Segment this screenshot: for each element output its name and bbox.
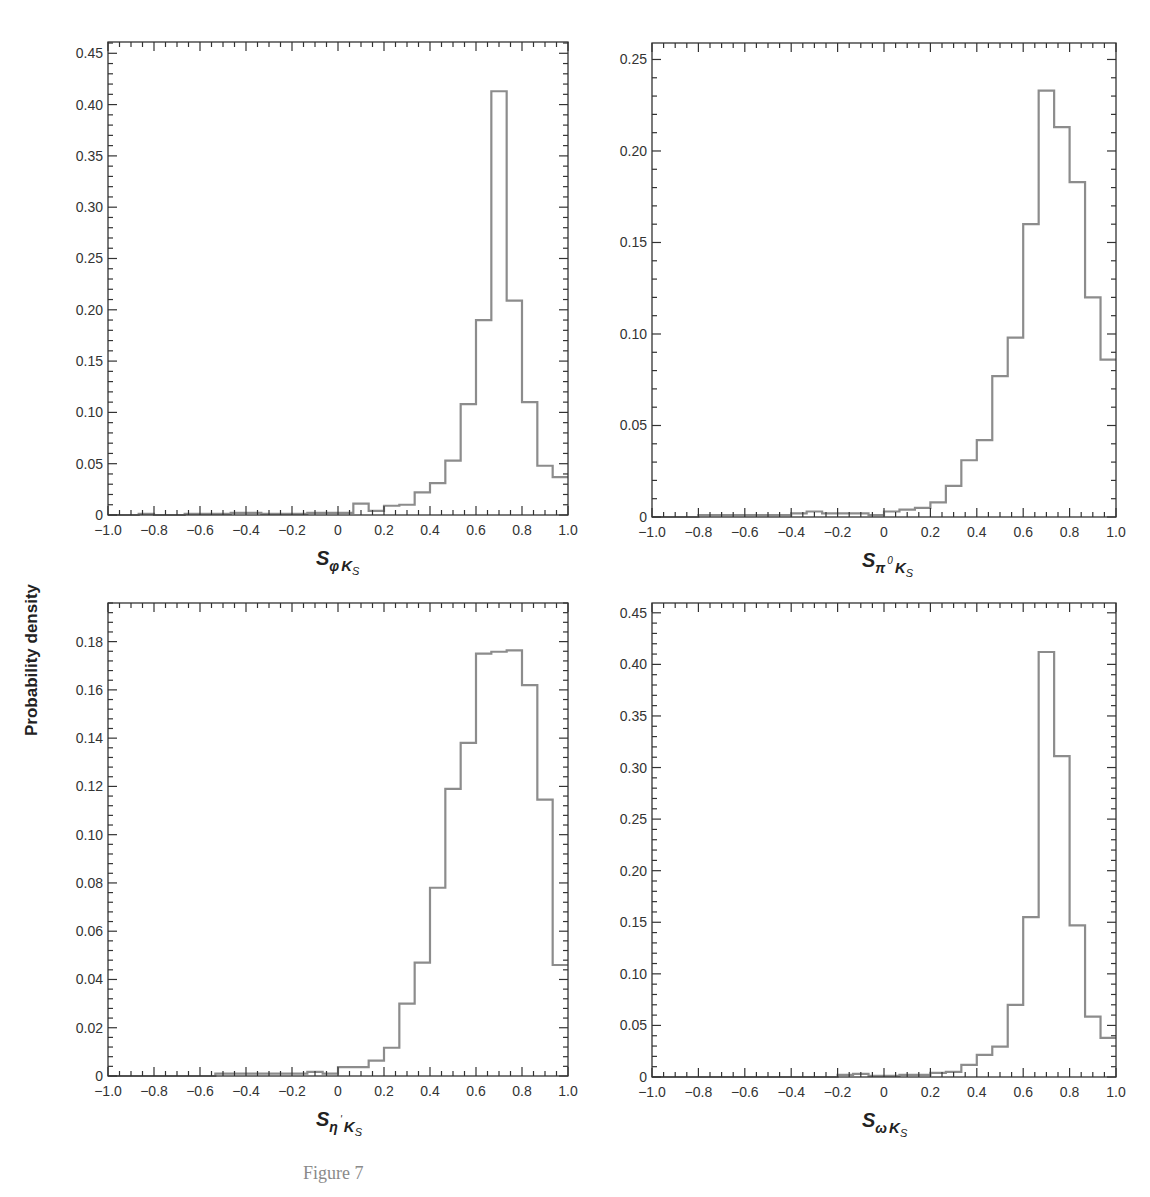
x-tick-label: −0.6 <box>186 1083 214 1099</box>
y-tick-label: 0.35 <box>620 708 647 724</box>
y-tick-label: 0.40 <box>620 656 647 672</box>
x-tick-label: −0.4 <box>777 1084 805 1100</box>
y-tick-label: 0.25 <box>620 811 647 827</box>
y-tick-label: 0.10 <box>76 827 103 843</box>
y-axis-label-text: Probability density <box>22 540 42 780</box>
x-tick-label: −0.2 <box>824 524 852 540</box>
x-tick-label: −0.8 <box>685 1084 713 1100</box>
x-tick-label: 0.2 <box>921 1084 941 1100</box>
y-tick-label: 0.14 <box>76 730 103 746</box>
x-axis-ticks <box>652 43 1116 517</box>
y-tick-label: 0.04 <box>76 971 103 987</box>
x-tick-label: −0.4 <box>232 1083 260 1099</box>
histogram-line <box>108 650 568 1076</box>
histogram-line <box>652 652 1116 1077</box>
x-tick-label: −0.2 <box>824 1084 852 1100</box>
y-axis-label: Probability density <box>22 620 32 660</box>
x-tick-label: 0 <box>334 1083 342 1099</box>
x-tick-label: 1.0 <box>558 522 578 538</box>
x-axis-ticks <box>652 603 1116 1077</box>
y-tick-label: 0.30 <box>76 199 103 215</box>
x-tick-label: 1.0 <box>1106 524 1126 540</box>
histogram-panels: −1.0−0.8−0.6−0.4−0.200.20.40.60.81.000.0… <box>0 0 1150 1197</box>
x-tick-label: 0 <box>880 1084 888 1100</box>
x-tick-label: −0.6 <box>186 522 214 538</box>
y-tick-label: 0.40 <box>76 97 103 113</box>
y-tick-label: 0 <box>639 509 647 525</box>
x-tick-label: −0.6 <box>731 1084 759 1100</box>
y-axis-ticks <box>652 613 1116 1077</box>
x-tick-label: 0.6 <box>466 1083 486 1099</box>
y-tick-label: 0.06 <box>76 923 103 939</box>
x-tick-label: −0.6 <box>731 524 759 540</box>
x-tick-label: 1.0 <box>1106 1084 1126 1100</box>
x-axis-label: Sπ0KS <box>862 549 914 579</box>
x-tick-label: −0.4 <box>232 522 260 538</box>
y-axis-ticks <box>652 59 1116 517</box>
histogram-panel-pi0-ks: −1.0−0.8−0.6−0.4−0.200.20.40.60.81.000.0… <box>620 43 1126 579</box>
x-tick-label: −1.0 <box>638 524 666 540</box>
plot-frame <box>108 603 568 1076</box>
x-axis-ticks <box>108 603 568 1076</box>
y-tick-label: 0 <box>95 1068 103 1084</box>
x-axis-label: Sη'KS <box>316 1108 363 1138</box>
x-tick-label: −0.8 <box>140 1083 168 1099</box>
y-tick-label: 0 <box>639 1069 647 1085</box>
histogram-panel-omega-ks: −1.0−0.8−0.6−0.4−0.200.20.40.60.81.000.0… <box>620 603 1126 1139</box>
x-tick-label: 0.2 <box>374 1083 394 1099</box>
x-tick-label: −0.8 <box>140 522 168 538</box>
y-tick-label: 0.20 <box>620 863 647 879</box>
y-tick-label: 0.35 <box>76 148 103 164</box>
y-tick-label: 0.25 <box>76 250 103 266</box>
histogram-panel-phi-ks: −1.0−0.8−0.6−0.4−0.200.20.40.60.81.000.0… <box>76 42 578 577</box>
x-tick-label: 0 <box>334 522 342 538</box>
y-tick-label: 0.30 <box>620 760 647 776</box>
plot-frame <box>652 43 1116 517</box>
x-tick-label: −0.2 <box>278 1083 306 1099</box>
y-tick-label: 0.15 <box>620 914 647 930</box>
x-tick-label: 0.8 <box>512 1083 532 1099</box>
x-tick-label: 0.8 <box>1060 524 1080 540</box>
y-tick-label: 0.25 <box>620 51 647 67</box>
y-tick-label: 0.10 <box>620 326 647 342</box>
y-tick-label: 0.18 <box>76 634 103 650</box>
y-tick-label: 0.05 <box>620 417 647 433</box>
y-tick-label: 0.16 <box>76 682 103 698</box>
x-tick-label: 0.4 <box>420 522 440 538</box>
y-tick-label: 0.45 <box>620 605 647 621</box>
y-tick-label: 0.10 <box>620 966 647 982</box>
x-tick-label: 0.2 <box>374 522 394 538</box>
x-tick-label: 0.6 <box>1013 524 1033 540</box>
x-tick-label: −0.4 <box>777 524 805 540</box>
histogram-line <box>108 91 568 515</box>
y-tick-label: 0 <box>95 507 103 523</box>
y-tick-label: 0.45 <box>76 45 103 61</box>
y-tick-label: 0.05 <box>76 456 103 472</box>
figure-caption: Figure 7 <box>303 1163 364 1184</box>
histogram-line <box>652 91 1116 517</box>
histogram-panel-etaprime-ks: −1.0−0.8−0.6−0.4−0.200.20.40.60.81.000.0… <box>76 603 578 1138</box>
y-tick-label: 0.08 <box>76 875 103 891</box>
figure: −1.0−0.8−0.6−0.4−0.200.20.40.60.81.000.0… <box>0 0 1150 1197</box>
x-tick-label: 0.6 <box>1013 1084 1033 1100</box>
x-tick-label: 0.6 <box>466 522 486 538</box>
x-tick-label: 0.8 <box>1060 1084 1080 1100</box>
x-axis-ticks <box>108 42 568 515</box>
plot-frame <box>108 42 568 515</box>
x-tick-label: −1.0 <box>94 522 122 538</box>
x-tick-label: 0.4 <box>967 1084 987 1100</box>
x-axis-label: SφKS <box>316 547 360 577</box>
y-tick-label: 0.10 <box>76 404 103 420</box>
x-tick-label: 1.0 <box>558 1083 578 1099</box>
x-tick-label: 0 <box>880 524 888 540</box>
x-tick-label: −1.0 <box>94 1083 122 1099</box>
x-tick-label: 0.8 <box>512 522 532 538</box>
y-axis-ticks <box>108 43 568 515</box>
plot-frame <box>652 603 1116 1077</box>
y-tick-label: 0.05 <box>620 1017 647 1033</box>
y-tick-label: 0.12 <box>76 778 103 794</box>
y-tick-label: 0.15 <box>620 234 647 250</box>
x-tick-label: 0.2 <box>921 524 941 540</box>
x-tick-label: −0.8 <box>685 524 713 540</box>
x-tick-label: −1.0 <box>638 1084 666 1100</box>
